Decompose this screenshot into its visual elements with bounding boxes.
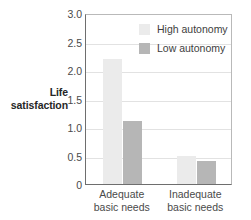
y-tick-label: 0 [58,180,82,191]
x-tick-label-line-2: basic needs [155,201,235,214]
bar-low-autonomy [197,161,216,184]
x-tick-label-line-1: Inadequate [155,188,235,201]
y-tick-label: 1.5 [58,94,82,105]
x-tick-label: Inadequatebasic needs [155,188,235,213]
bar-high-autonomy [103,59,122,184]
legend-item[interactable]: High autonomy [139,21,235,37]
legend-label: High autonomy [157,24,228,35]
x-tick-label-line-1: Adequate [82,188,162,201]
bar-high-autonomy [177,156,196,185]
x-tick-label-line-2: basic needs [82,201,162,214]
legend-item[interactable]: Low autonomy [139,40,235,56]
y-tick-label: 1.0 [58,123,82,134]
x-tick-label: Adequatebasic needs [82,188,162,213]
x-axis-tick-labels: Adequatebasic needsInadequatebasic needs [85,188,232,218]
chart-legend: High autonomyLow autonomy [139,21,235,59]
bar-low-autonomy [123,121,142,184]
legend-label: Low autonomy [157,43,225,54]
legend-swatch-icon [139,24,150,35]
y-tick-label: 0.5 [58,151,82,162]
y-tick-label: 2.5 [58,37,82,48]
y-axis-tick-labels: 3.02.52.01.51.00.50 [58,0,82,220]
y-tick-label: 3.0 [58,9,82,20]
y-tick-label: 2.0 [58,66,82,77]
bar-chart: Life satisfaction 3.02.52.01.51.00.50 Hi… [0,0,251,220]
legend-swatch-icon [139,43,150,54]
